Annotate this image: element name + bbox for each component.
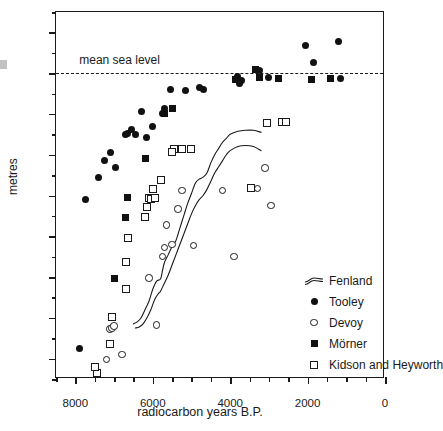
band-icon [299,275,329,286]
plot-area: -14-12-10-8-6-4-20+202000400060008000 me… [55,11,384,378]
data-point-kidson [108,313,116,321]
chart-legend: FenlandTooleyDevoyMörnerKidson and Heywo… [299,270,443,375]
data-point-morner [232,76,239,83]
scan-edge-artifact [0,60,7,69]
y-axis-major-tick [49,155,56,157]
legend-item-label: Kidson and Heyworth [329,358,443,372]
data-point-kidson [151,194,159,202]
x-axis-tick-label: 2000 [295,397,321,409]
y-axis-major-tick [49,359,56,361]
data-point-devoy [153,321,161,329]
legend-item-label: Tooley [329,295,364,309]
x-axis-tick-label: 8000 [63,397,89,409]
data-point-devoy [118,351,126,359]
data-point-kidson [157,176,165,184]
filled-circle-icon [299,298,329,305]
open-circle-icon [299,319,329,327]
data-point-tooley [107,149,114,156]
data-point-kidson [149,185,157,193]
data-point-tooley [82,196,89,203]
data-point-tooley [149,123,156,130]
data-point-morner [275,75,282,82]
data-point-devoy [174,205,182,213]
y-axis-title: metres [6,158,20,195]
data-point-kidson [141,213,149,221]
y-axis-major-tick [49,73,56,75]
data-point-morner [124,194,131,201]
data-point-devoy [110,322,118,330]
legend-item-label: Mörner [329,337,367,351]
fenland-lower-curve [135,146,261,328]
legend-item-label: Devoy [329,316,363,330]
y-axis-major-tick [49,236,56,238]
data-point-kidson [122,285,130,293]
data-point-morner [256,74,263,81]
data-point-devoy [168,241,176,249]
data-point-kidson [168,148,176,156]
data-point-devoy [267,202,275,210]
data-point-tooley [200,86,207,93]
legend-item: Tooley [299,291,443,312]
data-point-devoy [178,187,186,195]
data-point-kidson [106,340,114,348]
data-point-morner [169,105,176,112]
data-point-tooley [167,86,174,93]
data-point-tooley [76,345,83,352]
data-point-kidson [178,145,186,153]
x-axis-tick-label: 0 [382,397,388,409]
y-axis-major-tick [49,114,56,116]
x-axis-title: radiocarbon years B.P. [0,405,400,419]
data-point-tooley [95,174,102,181]
x-axis-major-tick [385,377,387,384]
data-point-morner [161,110,168,117]
x-axis-tick-label: 4000 [217,397,243,409]
data-point-kidson [282,118,290,126]
data-point-tooley [132,131,139,138]
data-point-kidson [247,184,255,192]
legend-item: Kidson and Heyworth [299,354,443,375]
fenland-upper-curve [133,130,261,324]
data-point-morner [142,155,149,162]
y-axis-major-tick [49,32,56,34]
x-axis-tick-label: 6000 [140,397,166,409]
data-point-kidson [187,145,195,153]
legend-item-label: Fenland [329,274,372,288]
y-axis-major-tick [49,277,56,279]
data-point-kidson [143,203,151,211]
data-point-morner [308,76,315,83]
data-point-tooley [337,75,344,82]
data-point-kidson [91,363,99,371]
data-point-morner [122,214,129,221]
legend-item: Devoy [299,312,443,333]
data-point-devoy [163,221,171,229]
data-point-devoy [145,274,153,282]
legend-item: Fenland [299,270,443,291]
data-point-morner [111,275,118,282]
y-axis-major-tick [49,196,56,198]
open-square-icon [299,361,329,369]
data-point-devoy [261,164,269,172]
data-point-morner [252,66,259,73]
y-axis-major-tick [49,318,56,320]
data-point-morner [327,75,334,82]
data-point-kidson [263,119,271,127]
data-point-kidson [122,258,130,266]
legend-item: Mörner [299,333,443,354]
filled-square-icon [299,340,329,347]
data-point-kidson [124,234,132,242]
